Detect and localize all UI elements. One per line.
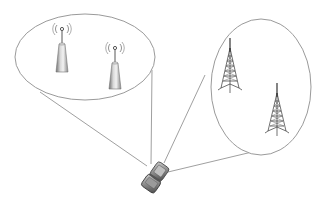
macro-towers-ellipse — [211, 19, 311, 155]
connection-line-towers-top — [164, 75, 205, 163]
small-cells-group — [15, 14, 155, 100]
macro-towers-group — [211, 19, 311, 155]
diagram-canvas — [0, 0, 316, 202]
mobile-phone-icon — [140, 160, 170, 194]
connection-line-small-cells-right — [151, 70, 152, 164]
network-diagram — [0, 0, 316, 202]
connection-line-towers-bottom — [168, 152, 252, 172]
connection-line-small-cells-left — [40, 92, 147, 166]
small-cells-ellipse — [15, 14, 155, 100]
